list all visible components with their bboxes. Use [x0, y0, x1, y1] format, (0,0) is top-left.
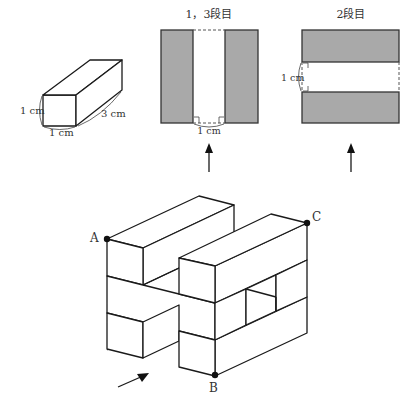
prism-length-label: 3 cm — [101, 108, 126, 119]
top-view-2-gap-label: 1 cm — [281, 72, 304, 83]
top-view-layers-1-3: 1，3段目 1 cm — [161, 7, 258, 172]
top-view-1-3-title: 1，3段目 — [186, 7, 233, 21]
point-a — [104, 236, 110, 242]
label-b: B — [209, 381, 218, 395]
unit-prism: 1 cm 1 cm 3 cm — [20, 60, 126, 138]
stacked-solid: A C B — [89, 196, 321, 395]
point-b — [212, 372, 218, 378]
view-arrow-head-icon-2 — [347, 143, 355, 153]
view-arrow-head-icon — [205, 143, 213, 153]
top-view-1-3-gap-label: 1 cm — [197, 125, 220, 136]
direction-arrow-shaft — [118, 376, 143, 387]
prism-height-label: 1 cm — [20, 105, 45, 116]
right-angle-marks — [194, 117, 224, 123]
block-top — [302, 30, 399, 62]
block-right — [225, 30, 258, 123]
point-c — [304, 220, 310, 226]
label-a: A — [89, 231, 99, 245]
label-c: C — [312, 210, 321, 224]
top-view-layer-2: 2段目 1 cm — [281, 7, 399, 172]
block-left — [161, 30, 193, 123]
prism-front-face — [43, 95, 76, 126]
figure-canvas: 1 cm 1 cm 3 cm 1，3段目 1 cm 2段目 1 cm — [0, 0, 413, 413]
top-view-2-title: 2段目 — [337, 7, 366, 21]
block-bottom — [302, 92, 399, 123]
prism-width-label: 1 cm — [49, 127, 74, 138]
